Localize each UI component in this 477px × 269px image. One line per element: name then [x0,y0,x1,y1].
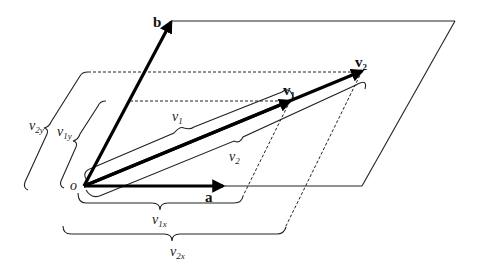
bottom-braces [63,193,286,241]
vector-v1-label: v1 [283,82,296,100]
v1y-brace [60,101,106,188]
v1x-projection-line [243,101,290,196]
v2-length-brace [86,82,366,196]
v1x-label: v1x [152,212,167,229]
v2x-projection-line [285,71,362,228]
projection-lines [88,71,362,228]
v1x-brace [78,193,243,210]
vector-v2-label: v2 [355,54,368,72]
v2-length-label: v2 [229,149,240,166]
v2x-label: v2x [170,244,185,261]
slanted-braces [85,82,366,196]
plane [172,21,455,186]
vector-a-label: a [205,189,213,205]
v1-length-label: v1 [172,109,183,126]
v2x-brace [63,226,286,241]
v1-length-brace [85,90,293,182]
plane-right-edge [362,21,455,186]
vector-b [84,22,171,186]
origin-label: o [70,178,77,193]
v1y-label: v1y [57,124,72,141]
v2y-label: v2y [29,118,44,135]
vector-v2 [84,71,362,186]
vector-decomposition-diagram: o a b v1 v2 v1 v2 v1x v2x v2y v1y [0,0,477,269]
vector-b-label: b [153,14,161,30]
vectors [84,22,362,186]
